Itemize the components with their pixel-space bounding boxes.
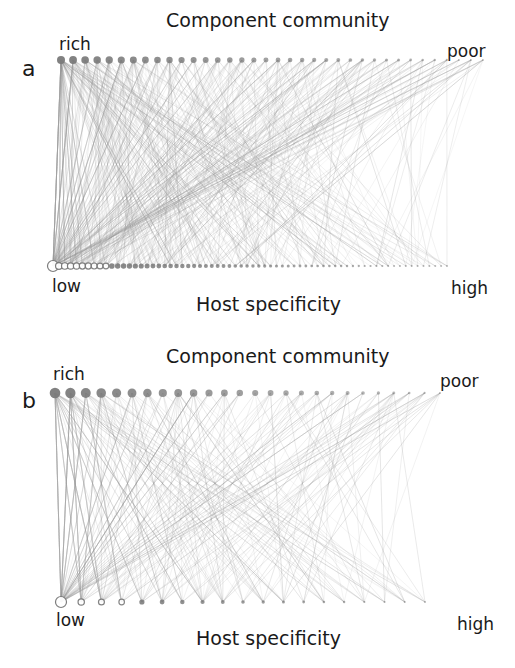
component-node — [203, 57, 209, 63]
host-node — [293, 265, 296, 268]
host-node — [186, 264, 190, 268]
component-node — [288, 58, 293, 63]
host-node — [384, 601, 386, 603]
component-node — [166, 57, 172, 63]
component-node — [69, 56, 77, 64]
panel-a: Component community rich poor a low high… — [0, 0, 515, 330]
host-node — [363, 601, 365, 603]
host-node — [200, 600, 204, 604]
component-node — [439, 392, 441, 394]
host-node — [239, 264, 243, 268]
host-node — [375, 265, 377, 267]
component-node — [106, 56, 113, 63]
host-node — [97, 263, 103, 269]
host-node — [281, 264, 284, 267]
host-node — [79, 263, 85, 269]
host-node — [119, 599, 125, 605]
component-node — [421, 59, 424, 62]
host-node — [381, 265, 383, 267]
host-node — [422, 265, 424, 267]
poor-label-b: poor — [440, 371, 479, 391]
host-node — [115, 263, 121, 269]
host-node — [180, 600, 185, 605]
component-node — [252, 390, 258, 396]
host-specificity-title-a: Host specificity — [196, 293, 341, 315]
host-node — [192, 264, 196, 268]
host-node — [310, 265, 313, 268]
host-node — [204, 264, 208, 268]
component-node — [237, 390, 243, 396]
host-node — [127, 263, 132, 268]
host-node — [269, 264, 272, 267]
host-node — [228, 264, 232, 268]
component-node — [276, 58, 281, 63]
component-node — [130, 57, 137, 64]
component-node — [361, 58, 365, 62]
host-node — [257, 264, 260, 267]
host-node — [424, 601, 426, 603]
host-node — [417, 265, 419, 267]
panel-letter-b: b — [22, 388, 36, 413]
host-node — [304, 265, 307, 268]
host-node — [145, 263, 150, 268]
host-node — [168, 264, 173, 269]
host-node — [180, 264, 184, 268]
host-node — [440, 265, 442, 267]
host-node — [245, 264, 249, 268]
host-node — [98, 599, 104, 605]
component-node — [118, 56, 125, 63]
host-node — [282, 600, 285, 603]
host-node — [139, 263, 144, 268]
component-node — [81, 388, 91, 398]
host-node — [160, 600, 165, 605]
host-node — [174, 264, 179, 269]
host-node — [299, 265, 302, 268]
component-node — [283, 390, 288, 395]
host-node — [221, 600, 225, 604]
component-node — [377, 391, 380, 394]
component-node — [434, 59, 436, 61]
component-node — [385, 58, 388, 61]
host-node — [316, 265, 319, 268]
component-node — [143, 389, 152, 398]
component-node — [65, 388, 75, 398]
component-node — [96, 388, 106, 398]
host-node — [411, 265, 413, 267]
host-node — [241, 600, 245, 604]
host-node — [387, 265, 389, 267]
edges — [53, 60, 483, 266]
component-node — [349, 58, 353, 62]
host-node — [151, 264, 156, 269]
component-node — [215, 57, 221, 63]
component-node — [423, 392, 425, 394]
host-node — [103, 263, 109, 269]
component-node — [336, 58, 340, 62]
host-node — [287, 265, 290, 268]
high-label-b: high — [457, 614, 494, 634]
component-node — [346, 391, 350, 395]
component-node — [373, 58, 376, 61]
host-node — [405, 265, 407, 267]
component-community-title-a: Component community — [166, 9, 390, 31]
component-node — [128, 389, 137, 398]
host-specificity-title-b: Host specificity — [196, 627, 341, 649]
host-node — [263, 264, 266, 267]
component-node — [251, 57, 256, 62]
component-node — [263, 58, 268, 63]
host-node — [393, 265, 395, 267]
component-node — [330, 391, 334, 395]
host-node — [364, 265, 366, 267]
host-node — [352, 265, 354, 267]
component-node — [57, 56, 65, 64]
component-node — [314, 391, 319, 396]
component-node — [408, 392, 411, 395]
host-node — [233, 264, 237, 268]
component-node — [81, 56, 89, 64]
component-node — [268, 390, 274, 396]
host-node — [210, 264, 214, 268]
host-node — [251, 264, 254, 267]
host-node — [56, 597, 67, 608]
high-label-a: high — [451, 278, 488, 298]
host-node — [323, 601, 326, 604]
host-node — [404, 601, 406, 603]
